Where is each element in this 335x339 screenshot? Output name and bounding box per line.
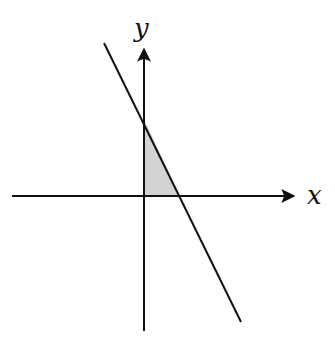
coordinate-diagram: x y <box>0 0 335 339</box>
decreasing-line <box>104 43 241 322</box>
shaded-triangle-region <box>144 119 180 196</box>
x-axis-label: x <box>307 180 322 210</box>
y-axis-label: y <box>133 13 149 43</box>
